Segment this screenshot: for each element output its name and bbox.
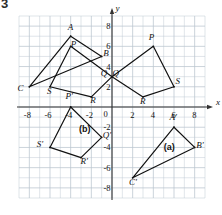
case-label-b: (b) xyxy=(79,125,91,134)
vertex-point xyxy=(70,35,72,37)
vertex-label-P: P xyxy=(71,40,77,49)
axis-lines xyxy=(17,8,213,200)
vertex-label-A: A xyxy=(68,23,74,32)
vertex-label-B-prime: B' xyxy=(196,141,203,150)
x-tick--8: -8 xyxy=(24,111,31,120)
vertex-label-R: R xyxy=(140,97,146,106)
vertex-label-S-prime: S' xyxy=(37,140,43,149)
x-tick-4: 4 xyxy=(151,111,155,120)
vertex-point xyxy=(152,45,154,47)
case-label-a: (a) xyxy=(164,143,175,152)
y-tick--8: -8 xyxy=(101,184,111,193)
y-tick-8: 8 xyxy=(101,22,111,31)
vertex-label-R-prime: R' xyxy=(81,157,88,166)
coordinate-plot xyxy=(0,0,222,215)
vertex-label-A-prime: A' xyxy=(169,113,176,122)
x-tick--6: -6 xyxy=(45,111,52,120)
y-axis-label: y xyxy=(116,4,120,13)
x-tick-2: 2 xyxy=(130,111,134,120)
quadrilateral-P1Q1R1S1 xyxy=(50,107,102,158)
vertex-label-P-prime: P' xyxy=(66,92,73,101)
vertex-label-Q: Q xyxy=(101,69,108,78)
vertex-label-C-prime: C' xyxy=(129,178,137,187)
vertex-point xyxy=(101,56,103,58)
y-tick-2: 2 xyxy=(101,83,111,92)
vertex-label-S: S xyxy=(176,77,181,86)
vertex-label-R: R xyxy=(90,96,96,105)
vertex-point xyxy=(28,86,30,88)
y-tick--6: -6 xyxy=(101,164,111,173)
x-tick-0: 0 xyxy=(104,110,108,119)
x-tick--2: -2 xyxy=(86,111,93,120)
vertex-label-P: P xyxy=(149,33,155,42)
x-axis-label: x xyxy=(216,98,220,107)
x-tick--4: -4 xyxy=(65,111,72,120)
vertex-point xyxy=(173,126,175,128)
vertex-label-B: B xyxy=(103,49,109,58)
vertex-label-Q: Q xyxy=(113,69,120,78)
y-tick--4: -4 xyxy=(101,143,111,152)
vertex-point xyxy=(194,147,196,149)
vertex-point xyxy=(49,147,51,149)
vertex-point xyxy=(70,106,72,108)
vertex-label-C: C xyxy=(18,84,24,93)
vertex-label-S: S xyxy=(47,87,52,96)
x-tick-8: 8 xyxy=(192,111,196,120)
vertex-label-Q-prime: Q' xyxy=(103,131,111,140)
